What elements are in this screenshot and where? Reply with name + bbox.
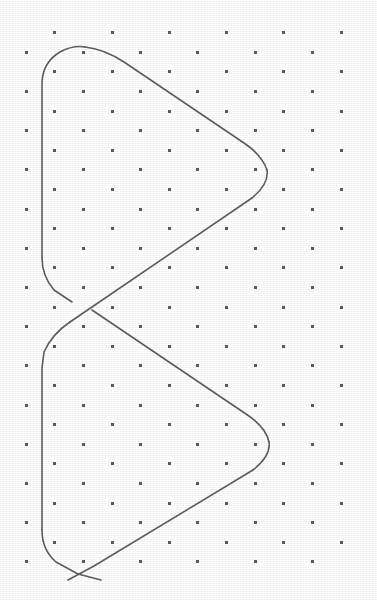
grid-dot [53,266,56,269]
grid-dot [168,188,171,191]
grid-dot [254,208,257,211]
grid-dot [196,247,199,250]
grid-dot [168,31,171,34]
grid-dot [282,227,285,230]
grid-dot [311,560,314,563]
grid-dot [168,266,171,269]
grid-dot [111,188,114,191]
grid-dot [340,31,343,34]
grid-dot [168,384,171,387]
grid-dot [25,168,28,171]
grid-dot [340,227,343,230]
grid-dot [168,110,171,113]
grid-dot [25,247,28,250]
grid-dot [225,462,228,465]
grid-dot [53,70,56,73]
grid-dot [111,384,114,387]
canvas-background [0,0,377,600]
grid-dot [82,168,85,171]
grid-dot [254,51,257,54]
grid-dot [282,384,285,387]
grid-dot [139,51,142,54]
grid-dot [196,208,199,211]
grid-dot [254,404,257,407]
grid-dot [53,502,56,505]
grid-dot [340,423,343,426]
grid-dot [254,521,257,524]
grid-dot [225,70,228,73]
grid-dot [225,149,228,152]
grid-dot [311,443,314,446]
grid-dot [82,404,85,407]
grid-dot [53,110,56,113]
grid-dot [139,286,142,289]
grid-dot [340,345,343,348]
grid-dot [168,149,171,152]
grid-dot [196,90,199,93]
grid-dot [82,560,85,563]
grid-dot [111,31,114,34]
grid-dot [53,384,56,387]
grid-dot [53,306,56,309]
grid-dot [82,482,85,485]
grid-dot [340,306,343,309]
grid-dot [139,90,142,93]
grid-dot [225,31,228,34]
grid-dot [111,149,114,152]
grid-dot [53,31,56,34]
grid-dot [111,227,114,230]
grid-dot [168,423,171,426]
grid-dot [82,247,85,250]
grid-dot [282,149,285,152]
grid-dot [340,188,343,191]
grid-dot [340,541,343,544]
grid-dot [111,266,114,269]
grid-dot [25,208,28,211]
grid-dot [225,384,228,387]
grid-dot [82,364,85,367]
grid-dot [196,286,199,289]
grid-dot [254,286,257,289]
grid-dot [82,443,85,446]
grid-dot [25,404,28,407]
grid-dot [53,541,56,544]
grid-dot [139,325,142,328]
grid-dot [82,325,85,328]
grid-dot [111,462,114,465]
grid-dot [111,345,114,348]
grid-dot [196,443,199,446]
grid-dot [340,70,343,73]
grid-dot [82,129,85,132]
grid-dot [282,306,285,309]
grid-dot [139,129,142,132]
grid-dot [196,168,199,171]
grid-dot [196,404,199,407]
grid-dot [25,51,28,54]
grid-dot [311,129,314,132]
grid-dot [139,208,142,211]
grid-dot [139,364,142,367]
grid-dot [139,404,142,407]
grid-dot [196,364,199,367]
grid-dot [82,286,85,289]
grid-dot [311,482,314,485]
grid-dot [225,227,228,230]
grid-dot [340,462,343,465]
grid-dot [311,168,314,171]
grid-dot [340,502,343,505]
grid-dot [340,110,343,113]
grid-dot [25,482,28,485]
grid-dot [311,325,314,328]
grid-dot [311,364,314,367]
grid-dot [111,423,114,426]
grid-dot [139,443,142,446]
grid-dot [111,502,114,505]
grid-dot [25,90,28,93]
grid-dot [311,404,314,407]
grid-dot [254,325,257,328]
grid-dot [282,31,285,34]
grid-dot [254,129,257,132]
grid-dot [254,443,257,446]
grid-dot [168,227,171,230]
grid-dot [168,541,171,544]
